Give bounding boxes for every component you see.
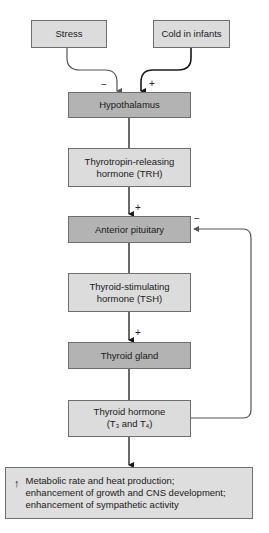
increase-arrow-icon: ↑ bbox=[14, 477, 20, 489]
outcome-line2: enhancement of growth and CNS developmen… bbox=[26, 487, 226, 499]
hypothalamus-box: Hypothalamus bbox=[68, 92, 191, 118]
outcome-text: Metabolic rate and heat production; enha… bbox=[26, 475, 226, 511]
outcome-box: ↑ Metabolic rate and heat production; en… bbox=[5, 467, 253, 519]
trh-sign: + bbox=[135, 203, 141, 213]
tsh-label-line1: Thyroid-stimulating bbox=[89, 281, 169, 293]
tsh-label-line2: hormone (TSH) bbox=[97, 293, 162, 305]
trh-label-line1: Thyrotropin-releasing bbox=[85, 156, 175, 168]
stress-sign: − bbox=[101, 80, 107, 90]
thyroid-hormone-label-line1: Thyroid hormone bbox=[94, 406, 166, 418]
stress-label: Stress bbox=[56, 28, 83, 40]
cold-label: Cold in infants bbox=[161, 28, 221, 40]
cold-in-infants-box: Cold in infants bbox=[153, 20, 230, 48]
connector-lines bbox=[0, 0, 269, 533]
stress-arrow bbox=[67, 47, 117, 91]
thyroid-gland-label: Thyroid gland bbox=[101, 350, 159, 362]
thyroid-hormone-label-line2: (T3 and T4) bbox=[107, 418, 153, 432]
thyroid-gland-box: Thyroid gland bbox=[68, 342, 191, 369]
feedback-arrow bbox=[191, 229, 251, 418]
trh-label-line2: hormone (TRH) bbox=[97, 168, 163, 180]
tsh-sign: + bbox=[135, 328, 141, 338]
cold-sign: + bbox=[149, 79, 155, 89]
feedback-sign: − bbox=[194, 214, 200, 224]
outcome-line3: enhancement of sympathetic activity bbox=[26, 499, 226, 511]
tsh-box: Thyroid-stimulating hormone (TSH) bbox=[68, 273, 191, 312]
stress-box: Stress bbox=[31, 20, 107, 48]
anterior-pituitary-box: Anterior pituitary bbox=[68, 216, 191, 243]
trh-box: Thyrotropin-releasing hormone (TRH) bbox=[68, 148, 191, 187]
hypothalamus-label: Hypothalamus bbox=[99, 99, 160, 111]
thyroid-hormone-box: Thyroid hormone (T3 and T4) bbox=[68, 400, 191, 437]
anterior-pituitary-label: Anterior pituitary bbox=[95, 224, 164, 236]
outcome-line1: Metabolic rate and heat production; bbox=[26, 475, 226, 487]
